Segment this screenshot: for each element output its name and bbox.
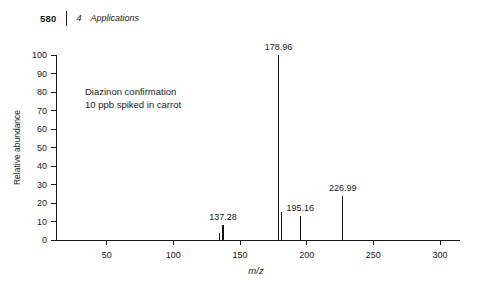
y-axis-tick-label: 0 [42,235,47,245]
y-axis-tick-label: 100 [32,50,47,60]
y-axis-tick-label: 70 [37,106,47,116]
y-axis-tick-label: 80 [37,87,47,97]
x-axis-tick-label: 200 [299,250,314,260]
y-axis-tick-label: 40 [37,161,47,171]
chapter-title: Applications [90,13,139,23]
y-axis-tick-label: 50 [37,143,47,153]
peak-label: 137.28 [209,212,237,222]
y-axis-tick-label: 90 [37,69,47,79]
mass-spectrum-figure: 010203040506070809010050100150200250300m… [0,30,496,293]
y-axis-tick-label: 20 [37,198,47,208]
x-axis-tick-label: 300 [432,250,447,260]
peak-label: 195.16 [286,203,314,213]
running-head: 580 4 Applications [40,9,139,27]
running-head-divider [66,11,67,26]
y-axis-title: Relative abundance [12,110,22,185]
y-axis-tick-label: 60 [37,124,47,134]
page-folio: 580 [40,13,56,24]
mass-spectrum-chart: 010203040506070809010050100150200250300m… [0,30,496,293]
y-axis-tick-label: 30 [37,180,47,190]
peak-label: 178.96 [265,42,293,52]
x-axis-tick-label: 100 [166,250,181,260]
x-axis-tick-label: 50 [102,250,112,260]
x-axis-title: m/z [248,265,264,276]
chart-annotation: Diazinon confirmation [85,86,176,97]
peak-label: 226.99 [329,183,357,193]
chart-annotation: 10 ppb spiked in carrot [85,99,181,110]
x-axis-tick-label: 150 [232,250,247,260]
y-axis-tick-label: 10 [37,217,47,227]
x-axis-tick-label: 250 [366,250,381,260]
chapter-number: 4 [76,13,81,23]
